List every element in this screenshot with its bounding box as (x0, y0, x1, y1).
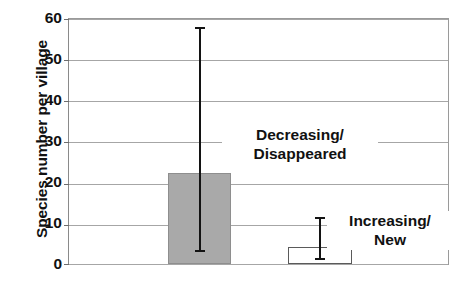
gridline-50 (69, 60, 448, 61)
gridline-20 (69, 184, 448, 185)
y-axis-tick-labels: 60 50 40 30 20 10 0 (28, 0, 62, 291)
error-bar-lower-cap (315, 258, 325, 260)
y-tick-mark-20 (64, 184, 69, 185)
error-bar-upper-cap (315, 217, 325, 219)
annotation-decreasing-disappeared: Decreasing/ Disappeared (222, 125, 378, 164)
y-tick-label-10: 10 (32, 215, 62, 231)
y-tick-mark-30 (64, 142, 69, 143)
y-tick-mark-10 (64, 225, 69, 226)
error-bar-stem (199, 27, 201, 252)
bar-chart: Species number per village 60 50 40 30 2… (0, 0, 465, 291)
y-tick-label-30: 30 (32, 133, 62, 149)
y-tick-mark-60 (64, 19, 69, 20)
gridline-0 (69, 264, 448, 265)
y-tick-label-0: 0 (32, 256, 62, 272)
y-tick-mark-50 (64, 60, 69, 61)
error-bar-stem (319, 217, 321, 260)
error-bar-upper-cap (195, 27, 205, 29)
y-tick-mark-0 (64, 264, 69, 265)
y-tick-label-20: 20 (32, 174, 62, 190)
gridline-60 (69, 19, 448, 20)
error-bar-lower-cap (195, 250, 205, 252)
y-tick-label-60: 60 (32, 10, 62, 26)
y-tick-label-40: 40 (32, 92, 62, 108)
y-tick-mark-40 (64, 101, 69, 102)
y-tick-label-50: 50 (32, 51, 62, 67)
gridline-40 (69, 101, 448, 102)
annotation-increasing-new: Increasing/ New (327, 211, 453, 250)
plot-area: Decreasing/ Disappeared Increasing/ New (68, 18, 449, 265)
